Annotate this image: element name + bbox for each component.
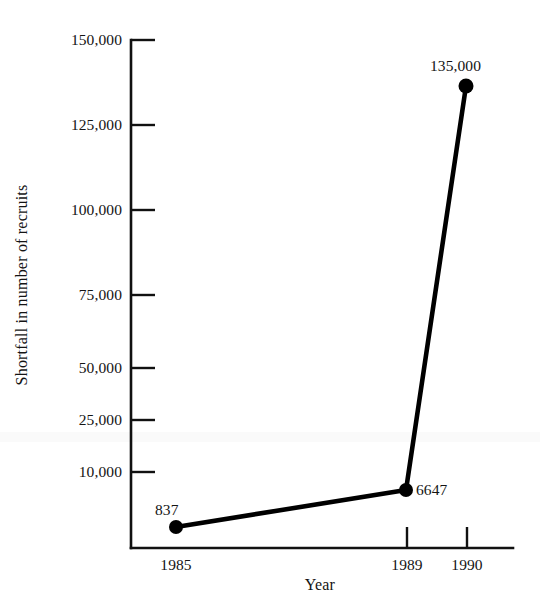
- y-tick-label-150000: 150,000: [71, 32, 122, 48]
- y-tick-label-10000: 10,000: [79, 464, 122, 480]
- plot-area-svg: [0, 0, 540, 614]
- y-tick-label-25000: 25,000: [79, 412, 122, 428]
- y-axis-ticks: [131, 40, 155, 472]
- data-point-markers: [169, 79, 474, 535]
- data-line-series-shortfall: [176, 86, 466, 527]
- x-axis-title: Year: [260, 576, 380, 594]
- y-tick-label-100000: 100,000: [71, 202, 122, 218]
- x-tick-label-1985: 1985: [144, 557, 208, 573]
- y-tick-label-125000: 125,000: [71, 117, 122, 133]
- y-tick-label-50000: 50,000: [79, 360, 122, 376]
- x-tick-label-1990: 1990: [435, 557, 499, 573]
- data-label-837: 837: [155, 502, 179, 518]
- data-label-6647: 6647: [416, 482, 447, 498]
- y-tick-label-75000: 75,000: [79, 287, 122, 303]
- x-axis-ticks: [407, 527, 467, 548]
- data-point-1990: [459, 79, 474, 94]
- data-point-1985: [169, 520, 183, 534]
- data-label-135000: 135,000: [430, 58, 481, 74]
- x-tick-label-1989: 1989: [375, 557, 439, 573]
- line-chart-figure: 150,000 125,000 100,000 75,000 50,000 25…: [0, 0, 540, 614]
- data-point-1989: [399, 483, 413, 497]
